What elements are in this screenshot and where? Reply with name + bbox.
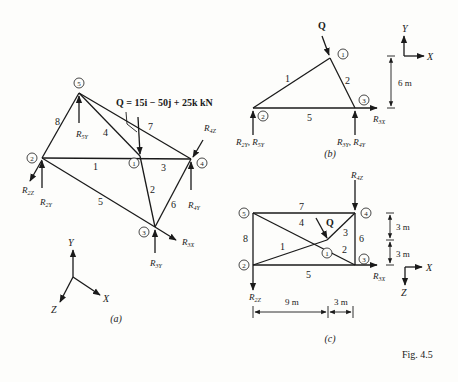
label-r3x-c: R3X [372, 271, 386, 282]
member-4-2-c [253, 213, 355, 265]
member-1-b [253, 58, 330, 108]
member-label-7-c: 7 [299, 201, 304, 212]
member-5 [42, 158, 155, 227]
member-label-5-c: 5 [306, 269, 311, 280]
member-label-1: 1 [93, 161, 98, 172]
load-q-arrow-b [322, 36, 329, 55]
load-q-label-b: Q [318, 20, 326, 31]
label-r2y: R2Y [39, 197, 53, 208]
member-1-3 [42, 158, 191, 159]
svg-text:2: 2 [261, 113, 265, 121]
member-label-8-c: 8 [243, 233, 248, 244]
reaction-r4z-arrow [193, 140, 203, 157]
axis-y-label: Y [68, 237, 75, 248]
view-a: Q = 15i − 50j + 25k kN 5 2 1 4 3 8 4 7 1… [21, 78, 217, 325]
svg-text:2: 2 [242, 262, 246, 270]
member-label-6: 6 [171, 199, 176, 210]
svg-text:1: 1 [325, 250, 329, 258]
label-r3y: R3Y [149, 258, 163, 269]
label-left-reactions-b: R2Y, R5Y [235, 137, 265, 148]
axis-z-arrow [60, 277, 73, 302]
svg-text:1: 1 [341, 51, 345, 59]
member-label-5: 5 [98, 196, 103, 207]
axis-z-label-c: Z [401, 287, 407, 298]
svg-text:4: 4 [364, 210, 368, 218]
member-label-1-b: 1 [285, 73, 290, 84]
axis-z-label: Z [51, 304, 57, 315]
member-8 [42, 93, 79, 158]
label-r2z: R2Z [21, 185, 35, 196]
svg-text:3: 3 [362, 256, 366, 264]
member-label-6-c: 6 [359, 233, 364, 244]
view-b: Q 1 2 3 1 2 5 R2Y, R5Y R3Y, R4Y R3X 6 m … [235, 20, 434, 160]
member-label-8: 8 [55, 116, 60, 127]
reaction-r3x-arrow [155, 227, 176, 240]
svg-text:5: 5 [242, 210, 246, 218]
label-r4z-c: R4Z [350, 170, 364, 181]
dim-6m-label: 6 m [398, 78, 412, 88]
member-label-7: 7 [148, 121, 153, 132]
view-b-label: (b) [324, 148, 336, 160]
axis-x-label-c: X [425, 262, 433, 273]
svg-text:2: 2 [30, 155, 34, 163]
label-r4y: R4Y [187, 200, 201, 211]
dim-9m-label: 9 m [285, 297, 299, 307]
member-label-3-c: 3 [343, 227, 348, 238]
svg-text:3: 3 [142, 229, 146, 237]
axis-x-label: X [102, 293, 110, 304]
svg-text:5: 5 [77, 80, 81, 88]
member-label-2-c: 2 [342, 244, 347, 255]
load-q-arrow [138, 117, 140, 154]
dim-3m-bottom-label: 3 m [396, 249, 410, 259]
label-r2z-c: R2Z [248, 292, 262, 303]
dim-3m-top-label: 3 m [396, 222, 410, 232]
dim-3m-h-label: 3 m [334, 297, 348, 307]
svg-text:1: 1 [132, 160, 136, 168]
axis-x-label-b: X [426, 51, 434, 62]
member-2-b [330, 58, 355, 108]
svg-text:3: 3 [362, 97, 366, 105]
truss-figure: Q = 15i − 50j + 25k kN 5 2 1 4 3 8 4 7 1… [0, 0, 458, 382]
label-r5y: R5Y [75, 129, 89, 140]
member-label-4: 4 [103, 127, 108, 138]
member-label-4-c: 4 [299, 217, 304, 228]
load-q-expression: Q = 15i − 50j + 25k kN [116, 97, 214, 108]
view-a-label: (a) [110, 313, 122, 325]
axis-x-arrow [73, 277, 100, 295]
member-label-5-b: 5 [307, 112, 312, 123]
label-r3x-b: R3X [372, 114, 386, 125]
member-label-3: 3 [161, 162, 166, 173]
member-label-2: 2 [150, 184, 155, 195]
axis-y-label-b: Y [402, 23, 409, 34]
view-c-label: (c) [324, 333, 336, 345]
load-q-label-c: Q [326, 217, 334, 228]
member-label-2-b: 2 [345, 75, 350, 86]
svg-text:4: 4 [200, 160, 204, 168]
member-label-1-c: 1 [280, 241, 285, 252]
member-1-c [253, 240, 327, 265]
label-right-reactions-b: R3Y, R4Y [336, 137, 366, 148]
figure-caption: Fig. 4.5 [402, 349, 433, 360]
view-c: Q 5 4 2 1 3 7 4 3 6 8 1 2 5 R4Z R2Z R3X … [239, 170, 433, 345]
label-r3x: R3X [181, 237, 195, 248]
label-r4z: R4Z [203, 123, 217, 134]
